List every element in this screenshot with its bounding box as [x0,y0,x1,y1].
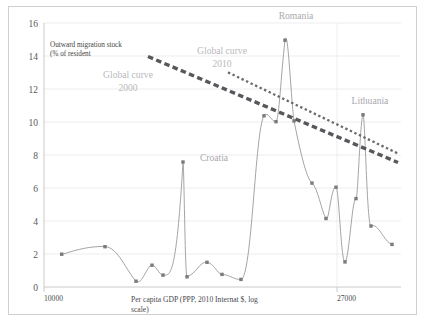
data-point-marker [185,275,188,278]
x-tick-label-10000: 10000 [44,294,63,303]
data-point-marker [354,197,357,200]
data-point-marker [262,114,265,117]
y-tick-label-16: 16 [29,19,39,29]
y-tick-label-12: 12 [29,85,39,95]
data-point-marker [292,119,295,122]
migration-gdp-chart: 16 14 12 10 8 6 4 2 0 10000 27000 Per ca… [0,0,425,328]
y-tick-label-10: 10 [29,118,39,128]
x-tick-label-27000: 27000 [337,294,356,303]
y-axis-title-line1: Outward migration stock [50,41,122,49]
data-point-marker [310,181,313,184]
y-axis-title: Outward migration stock (% of resident [50,41,122,58]
y-tick-label-2: 2 [33,250,38,260]
x-axis-title: Per capita GDP (PPP, 2010 Internat $, lo… [131,295,258,314]
y-tick-label-0: 0 [33,283,38,293]
data-point-marker [103,245,106,248]
y-tick-label-8: 8 [33,151,38,161]
annotation-global-curve-2000-line1: Global curve [103,69,153,80]
y-axis-title-line2: (% of resident [50,50,91,58]
data-point-marker [274,120,277,123]
y-tick-label-4: 4 [33,217,38,227]
data-point-marker [134,280,137,283]
data-point-marker [150,264,153,267]
annotation-global-curve-2010-line1: Global curve [197,45,247,56]
data-point-marker [181,160,184,163]
data-point-marker [205,261,208,264]
x-tick-marks [44,287,337,292]
annotation-romania: Romania [279,10,314,21]
data-point-marker [361,113,364,116]
data-point-marker [334,186,337,189]
data-point-marker [60,253,63,256]
x-axis-title-line1: Per capita GDP (PPP, 2010 Internat $, lo… [131,295,258,304]
annotation-croatia: Croatia [200,152,229,163]
annotation-global-curve-2000-line2: 2000 [118,82,137,93]
y-tick-label-14: 14 [29,52,39,62]
chart-figure: 16 14 12 10 8 6 4 2 0 10000 27000 Per ca… [0,0,425,328]
trendline-global-curve-2000 [148,57,398,163]
data-point-marker [220,273,223,276]
y-tick-labels: 16 14 12 10 8 6 4 2 0 [29,19,39,293]
data-point-marker [324,217,327,220]
data-point-marker [239,278,242,281]
trendline-global-curve-2010 [228,72,398,153]
data-point-marker [161,273,164,276]
data-point-marker [283,39,286,42]
data-point-marker [369,224,372,227]
data-point-marker [343,260,346,263]
data-point-marker [390,243,393,246]
annotation-global-curve-2010-line2: 2010 [212,58,231,69]
y-tick-label-6: 6 [33,184,38,194]
annotation-lithuania: Lithuania [352,95,390,106]
x-axis-title-line2: scale) [131,305,149,314]
